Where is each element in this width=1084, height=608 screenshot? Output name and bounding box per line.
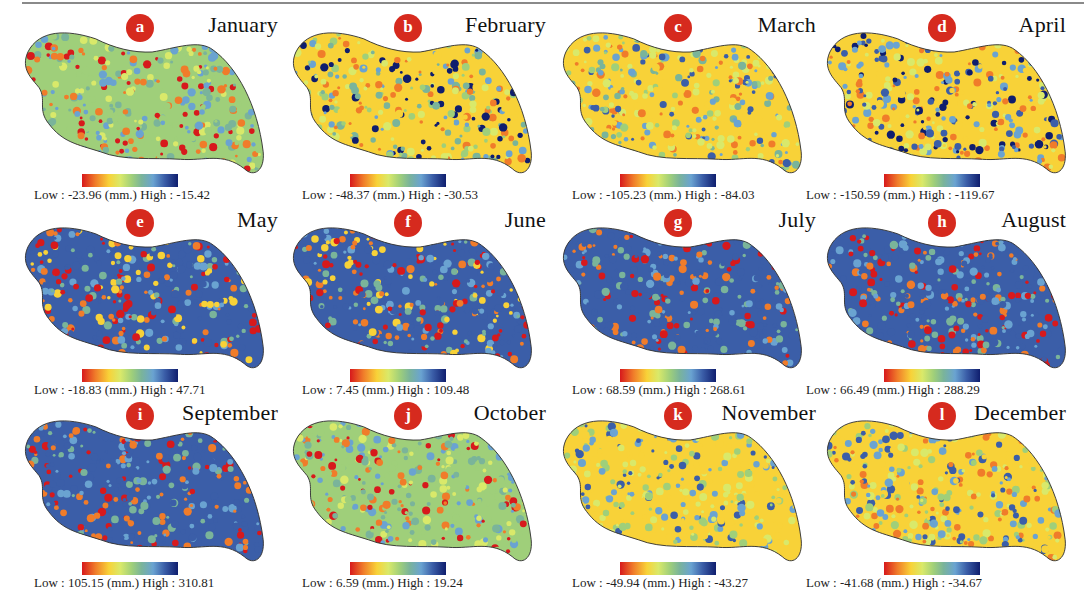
raster-map: [806, 215, 1074, 375]
colorbar: [82, 369, 178, 382]
panel-july: g July Low : 68.59 (mm.) High : 268.61: [542, 207, 810, 397]
unit-label: (mm.): [877, 575, 909, 590]
raster-map: [542, 20, 810, 180]
raster-map: [4, 215, 272, 375]
panel-october: j October Low : 6.59 (mm.) High : 19.24: [272, 400, 540, 590]
low-value: -23.96: [68, 187, 102, 202]
high-label: High :: [397, 575, 430, 590]
colorbar: [82, 562, 178, 575]
unit-label: (mm.): [107, 575, 139, 590]
unit-label: (mm.): [638, 382, 670, 397]
top-rule: [22, 2, 1084, 4]
high-value: -119.67: [955, 187, 995, 202]
panel-september: i September Low : 105.15 (mm.) High : 31…: [4, 400, 272, 590]
raster-map: [272, 215, 540, 375]
low-label: Low :: [302, 382, 333, 397]
low-label: Low :: [806, 187, 837, 202]
high-label: High :: [678, 575, 711, 590]
panel-january: a January Low : -23.96 (mm.) High : -15.…: [4, 12, 272, 202]
high-value: 47.71: [176, 382, 205, 397]
unit-label: (mm.): [373, 187, 405, 202]
panel-letter-badge: a: [126, 14, 154, 42]
colorbar: [884, 562, 980, 575]
high-value: -84.03: [721, 187, 755, 202]
raster-map: [272, 408, 540, 568]
high-label: High :: [397, 382, 430, 397]
colorbar-legend: Low : 6.59 (mm.) High : 19.24: [302, 575, 463, 591]
panel-letter-badge: h: [928, 209, 956, 237]
high-value: 109.48: [433, 382, 469, 397]
colorbar-legend: Low : 68.59 (mm.) High : 268.61: [572, 382, 746, 398]
high-value: 268.61: [710, 382, 746, 397]
high-value: -34.67: [948, 575, 982, 590]
colorbar: [884, 369, 980, 382]
colorbar: [350, 369, 446, 382]
low-value: -105.23: [606, 187, 646, 202]
high-label: High :: [140, 382, 173, 397]
raster-map: [542, 408, 810, 568]
low-value: 66.49: [840, 382, 869, 397]
colorbar: [82, 174, 178, 187]
low-label: Low :: [806, 382, 837, 397]
low-value: -18.83: [68, 382, 102, 397]
low-value: -41.68: [840, 575, 874, 590]
low-value: 68.59: [606, 382, 635, 397]
high-label: High :: [912, 575, 945, 590]
raster-map: [542, 215, 810, 375]
colorbar: [350, 562, 446, 575]
colorbar: [350, 174, 446, 187]
panel-letter-badge: b: [394, 14, 422, 42]
month-title: June: [505, 207, 546, 233]
high-value: 19.24: [433, 575, 462, 590]
low-label: Low :: [572, 575, 603, 590]
high-label: High :: [408, 187, 441, 202]
panel-november: k November Low : -49.94 (mm.) High : -43…: [542, 400, 810, 590]
colorbar-legend: Low : -18.83 (mm.) High : 47.71: [34, 382, 206, 398]
panel-letter-badge: j: [394, 402, 422, 430]
low-label: Low :: [302, 187, 333, 202]
unit-label: (mm.): [362, 575, 394, 590]
month-title: August: [1001, 207, 1066, 233]
low-value: -49.94: [606, 575, 640, 590]
high-value: -43.27: [714, 575, 748, 590]
colorbar: [620, 174, 716, 187]
low-value: 105.15: [68, 575, 104, 590]
colorbar-legend: Low : -49.94 (mm.) High : -43.27: [572, 575, 748, 591]
month-title: February: [465, 12, 546, 38]
panel-letter-badge: l: [928, 402, 956, 430]
panel-letter-badge: i: [126, 402, 154, 430]
unit-label: (mm.): [872, 382, 904, 397]
raster-map: [4, 408, 272, 568]
month-title: December: [974, 400, 1066, 426]
high-label: High :: [908, 382, 941, 397]
month-title: September: [182, 400, 278, 426]
unit-label: (mm.): [883, 187, 915, 202]
low-value: -48.37: [336, 187, 370, 202]
unit-label: (mm.): [105, 187, 137, 202]
low-label: Low :: [572, 382, 603, 397]
colorbar: [884, 174, 980, 187]
colorbar-legend: Low : -150.59 (mm.) High : -119.67: [806, 187, 994, 203]
month-title: November: [722, 400, 816, 426]
colorbar-legend: Low : -23.96 (mm.) High : -15.42: [34, 187, 210, 203]
high-label: High :: [685, 187, 718, 202]
low-label: Low :: [34, 187, 65, 202]
panel-letter-badge: g: [664, 209, 692, 237]
colorbar-legend: Low : 7.45 (mm.) High : 109.48: [302, 382, 469, 398]
low-label: Low :: [806, 575, 837, 590]
high-value: -15.42: [176, 187, 210, 202]
high-value: 310.81: [178, 575, 214, 590]
low-value: 7.45: [336, 382, 359, 397]
unit-label: (mm.): [649, 187, 681, 202]
colorbar-legend: Low : -48.37 (mm.) High : -30.53: [302, 187, 478, 203]
unit-label: (mm.): [362, 382, 394, 397]
high-label: High :: [919, 187, 952, 202]
panel-august: h August Low : 66.49 (mm.) High : 288.29: [806, 207, 1074, 397]
raster-map: [806, 20, 1074, 180]
low-label: Low :: [302, 575, 333, 590]
high-label: High :: [140, 187, 173, 202]
panel-june: f June Low : 7.45 (mm.) High : 109.48: [272, 207, 540, 397]
panel-letter-badge: f: [394, 209, 422, 237]
low-label: Low :: [34, 575, 65, 590]
panel-december: l December Low : -41.68 (mm.) High : -34…: [806, 400, 1074, 590]
